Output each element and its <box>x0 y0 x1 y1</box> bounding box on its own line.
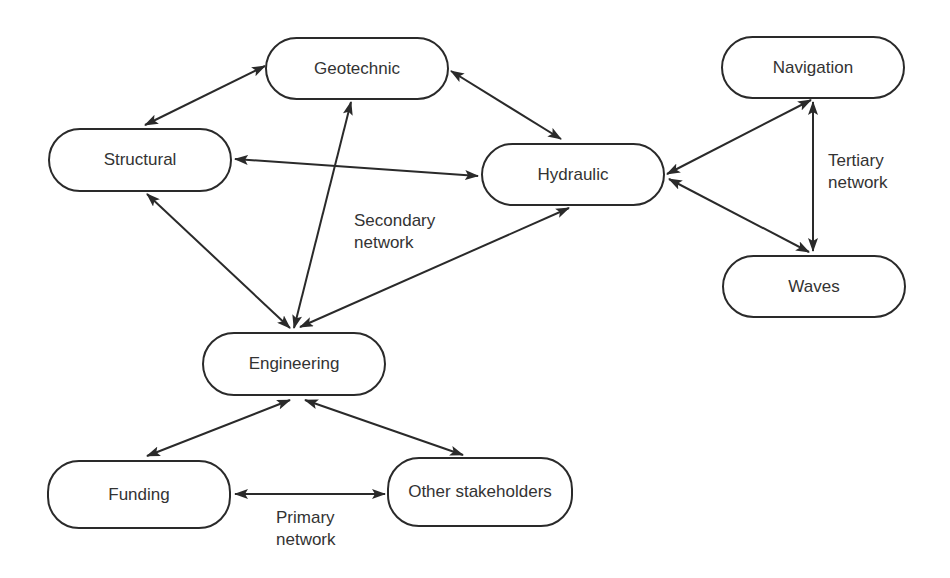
node-label: Waves <box>788 277 839 297</box>
node-other-stakeholders: Other stakeholders <box>387 457 573 527</box>
annotation-line: Primary <box>276 507 336 529</box>
annotation-line: network <box>828 172 888 194</box>
annotation-primary-network: Primary network <box>276 507 336 551</box>
edge-geotechnic-engineering <box>294 102 351 328</box>
node-hydraulic: Hydraulic <box>481 143 665 206</box>
annotation-line: network <box>354 232 435 254</box>
edge-structural-engineering <box>147 194 290 328</box>
node-label: Geotechnic <box>314 59 400 79</box>
annotation-line: Tertiary <box>828 150 888 172</box>
annotation-secondary-network: Secondary network <box>354 210 435 254</box>
node-structural: Structural <box>48 128 232 192</box>
node-label: Navigation <box>773 58 853 78</box>
edge-structural-hydraulic <box>235 159 478 176</box>
edge-navigation-hydraulic <box>667 100 811 174</box>
edge-hydraulic-waves <box>669 179 809 252</box>
node-label: Other stakeholders <box>408 482 552 502</box>
edge-engineering-other <box>305 400 463 455</box>
node-label: Funding <box>108 485 169 505</box>
edge-geotechnic-hydraulic <box>451 71 561 139</box>
network-diagram: Geotechnic Structural Hydraulic Navigati… <box>0 0 950 578</box>
annotation-line: network <box>276 529 336 551</box>
annotation-line: Secondary <box>354 210 435 232</box>
edge-structural-geotechnic <box>145 66 265 125</box>
node-label: Structural <box>104 150 177 170</box>
annotation-tertiary-network: Tertiary network <box>828 150 888 194</box>
node-funding: Funding <box>47 460 231 529</box>
node-waves: Waves <box>722 255 906 318</box>
node-label: Hydraulic <box>538 165 609 185</box>
node-engineering: Engineering <box>202 332 386 396</box>
edge-engineering-funding <box>147 400 290 456</box>
node-geotechnic: Geotechnic <box>265 37 449 100</box>
node-label: Engineering <box>249 354 340 374</box>
node-navigation: Navigation <box>721 36 905 99</box>
